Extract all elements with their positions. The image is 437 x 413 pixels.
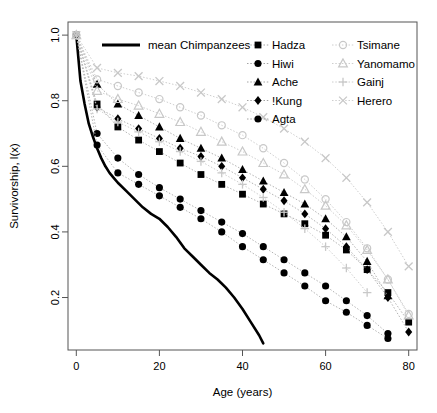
data-point — [239, 191, 246, 198]
data-point — [364, 322, 371, 329]
data-point — [405, 319, 412, 326]
x-tick-label: 0 — [73, 360, 79, 372]
data-point — [343, 297, 350, 304]
legend-swatch-marker — [254, 115, 261, 122]
data-point — [218, 181, 225, 188]
data-point — [114, 155, 121, 162]
data-point — [280, 256, 287, 263]
data-point — [198, 171, 205, 178]
x-axis-title: Age (years) — [213, 386, 273, 398]
data-point — [197, 215, 204, 222]
y-axis-title: Survivorship, l(x) — [8, 143, 20, 229]
data-point — [135, 137, 142, 144]
data-point — [114, 169, 121, 176]
data-point — [301, 282, 308, 289]
legend-label: Gainj — [357, 76, 384, 88]
legend-label-mean-chimpanzees: mean Chimpanzees — [148, 39, 251, 51]
data-point — [343, 309, 350, 316]
y-tick-label: 0.2 — [49, 290, 61, 305]
data-point — [322, 297, 329, 304]
legend-swatch-marker — [255, 42, 262, 49]
data-point — [280, 269, 287, 276]
x-tick-label: 20 — [153, 360, 165, 372]
data-point — [135, 181, 142, 188]
legend-label: Hiwi — [272, 58, 294, 70]
legend-label: Tsimane — [357, 39, 400, 51]
y-tick-label: 0.8 — [49, 93, 61, 108]
legend-label: Yanomamo — [357, 58, 415, 70]
y-tick-label: 0.4 — [49, 224, 61, 239]
data-point — [94, 141, 101, 148]
x-tick-label: 40 — [236, 360, 248, 372]
y-tick-label: 1.0 — [49, 27, 61, 42]
x-tick-label: 80 — [403, 360, 415, 372]
legend-label: !Kung — [272, 95, 302, 107]
data-point — [156, 148, 163, 155]
data-point — [364, 312, 371, 319]
data-point — [135, 171, 142, 178]
data-point — [156, 184, 163, 191]
legend-label: Hadza — [272, 39, 306, 51]
y-tick-label: 0.6 — [49, 159, 61, 174]
data-point — [322, 282, 329, 289]
data-point — [260, 243, 267, 250]
legend-label: Agta — [272, 113, 296, 125]
data-point — [301, 269, 308, 276]
data-point — [156, 192, 163, 199]
data-point — [384, 335, 391, 342]
data-point — [218, 219, 225, 226]
survivorship-chart: 0204060800.20.40.60.81.0 mean Chimpanzee… — [0, 0, 437, 413]
legend-label: Ache — [272, 76, 298, 88]
legend-swatch-marker — [254, 60, 261, 67]
chart-root: 0204060800.20.40.60.81.0 mean Chimpanzee… — [0, 0, 437, 413]
data-point — [239, 243, 246, 250]
data-point — [260, 256, 267, 263]
data-point — [177, 160, 184, 167]
data-point — [177, 204, 184, 211]
data-point — [218, 228, 225, 235]
data-point — [177, 196, 184, 203]
legend-label: Herero — [357, 95, 392, 107]
data-point — [239, 230, 246, 237]
x-tick-label: 60 — [319, 360, 331, 372]
data-point — [197, 207, 204, 214]
